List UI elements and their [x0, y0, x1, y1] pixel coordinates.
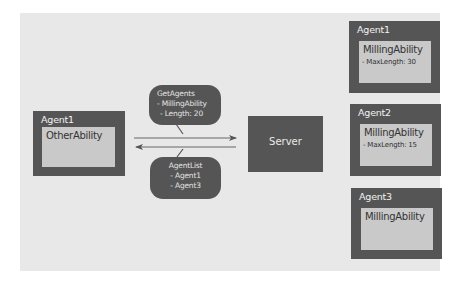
response-bubble: AgentList - Agent1 - Agent3 — [150, 157, 221, 199]
right-agent-3-title: Agent3 — [359, 191, 392, 202]
right-agent-3-ability-name: MillingAbility — [365, 211, 425, 222]
right-agent-1-title: Agent1 — [357, 24, 390, 35]
request-bubble-line-2: - MillingAbility — [157, 99, 221, 109]
right-agent-2-ability-box: MillingAbility - MaxLength: 15 — [360, 124, 432, 166]
right-agent-1-node: Agent1 MillingAbility - MaxLength: 30 — [349, 21, 440, 93]
server-label: Server — [248, 136, 323, 147]
right-agent-1-ability-param: - MaxLength: 30 — [362, 58, 416, 66]
right-agent-2-node: Agent2 MillingAbility - MaxLength: 15 — [350, 104, 441, 176]
request-bubble-line-1: GetAgents — [157, 89, 221, 99]
response-bubble-line-3: - Agent3 — [150, 181, 221, 191]
request-bubble: GetAgents - MillingAbility - Length: 20 — [149, 85, 221, 125]
right-agent-1-ability-name: MillingAbility — [363, 44, 423, 55]
right-agent-2-ability-param: - MaxLength: 15 — [363, 141, 417, 149]
server-node: Server — [248, 116, 323, 172]
response-bubble-tail — [177, 149, 183, 157]
right-agent-3-node: Agent3 MillingAbility — [351, 188, 442, 259]
right-agent-3-ability-box: MillingAbility — [361, 208, 433, 250]
right-agent-1-ability-box: MillingAbility - MaxLength: 30 — [359, 41, 431, 83]
request-bubble-tail — [176, 124, 183, 134]
response-bubble-line-2: - Agent1 — [150, 171, 221, 181]
response-bubble-line-1: AgentList — [150, 161, 221, 171]
right-agent-2-ability-name: MillingAbility — [364, 127, 424, 138]
right-agent-2-title: Agent2 — [358, 107, 391, 118]
request-bubble-line-3: - Length: 20 — [157, 109, 221, 119]
